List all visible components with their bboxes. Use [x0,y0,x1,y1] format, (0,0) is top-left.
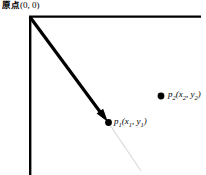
vector-arrow-shaft [30,17,104,117]
point-p1 [105,119,112,126]
p1-label: p1(x1, y1) [114,117,147,128]
p2-label: p2(x2, y2) [168,90,201,101]
origin-label: 原点(0, 0) [2,1,40,10]
p2-label-close: ) [198,89,201,99]
point-p2 [158,93,165,100]
coordinate-diagram: 原点(0, 0) p1(x1, y1) p2(x2, y2) [0,0,206,175]
faint-extension-line [108,122,141,171]
origin-label-text: 原点 [2,0,20,10]
origin-label-coords: (0, 0) [20,0,40,10]
diagram-canvas [0,0,206,175]
p1-label-close: ) [144,116,147,126]
